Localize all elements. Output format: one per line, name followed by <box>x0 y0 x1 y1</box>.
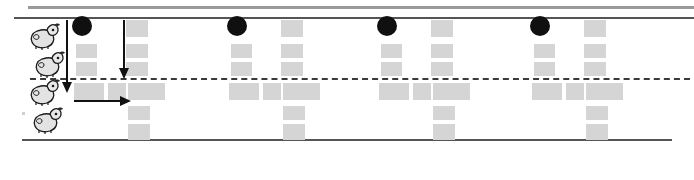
arrow-head-right-icon <box>120 96 131 106</box>
gray-block <box>566 83 584 100</box>
gray-block <box>586 124 608 140</box>
gray-block <box>283 106 305 120</box>
gray-block <box>281 62 303 76</box>
gray-block <box>532 83 562 100</box>
gray-block <box>231 62 252 76</box>
gray-block <box>76 62 97 76</box>
arrow-head-down-icon <box>119 68 129 79</box>
gray-block <box>263 83 281 100</box>
gray-block <box>281 44 303 58</box>
gray-block <box>431 62 453 76</box>
top-dark-rule <box>14 17 694 19</box>
gray-block <box>283 124 305 140</box>
gray-block <box>584 20 606 37</box>
animal-figure-icon <box>33 50 67 78</box>
gray-block <box>584 62 606 76</box>
notehead-icon <box>377 16 397 36</box>
gray-block <box>379 83 409 100</box>
gray-block <box>126 20 148 37</box>
arrow-head-down-icon <box>62 82 72 93</box>
gray-block <box>534 44 555 58</box>
gray-block <box>433 83 470 100</box>
top-light-rule <box>28 6 694 9</box>
gray-block <box>586 83 623 100</box>
gray-block <box>433 124 455 140</box>
notehead-icon <box>530 16 550 36</box>
notehead-icon <box>227 16 247 36</box>
gray-block <box>584 44 606 58</box>
gray-block <box>229 83 259 100</box>
gray-block <box>431 20 453 37</box>
faint-left-tick <box>22 112 25 115</box>
arrow-shaft <box>66 20 68 83</box>
arrow-shaft <box>123 20 125 69</box>
gray-block <box>381 44 402 58</box>
middle-dashed-rule <box>30 78 690 80</box>
gray-block <box>74 83 104 100</box>
notehead-icon <box>72 16 92 36</box>
notation-figure <box>0 0 694 180</box>
gray-block <box>586 106 608 120</box>
animal-figure-icon <box>28 22 62 50</box>
gray-block <box>231 44 252 58</box>
gray-block <box>431 44 453 58</box>
gray-block <box>128 106 150 120</box>
gray-block <box>534 62 555 76</box>
gray-block <box>128 124 150 140</box>
gray-block <box>126 62 148 76</box>
gray-block <box>76 44 97 58</box>
gray-block <box>126 44 148 58</box>
gray-block <box>281 20 303 37</box>
bottom-dark-rule <box>22 139 672 141</box>
gray-block <box>283 83 320 100</box>
gray-block <box>433 106 455 120</box>
gray-block <box>381 62 402 76</box>
gray-block <box>413 83 431 100</box>
animal-figure-icon <box>28 78 62 106</box>
gray-block <box>128 83 165 100</box>
animal-figure-icon <box>31 106 65 134</box>
arrow-shaft <box>74 100 121 102</box>
